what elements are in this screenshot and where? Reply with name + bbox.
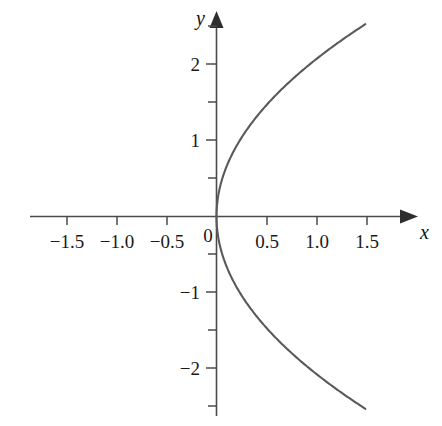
x-tick-label-1-0: 1.0 bbox=[305, 232, 329, 251]
y-tick-label-neg2: −2 bbox=[166, 359, 200, 378]
y-axis-label: y bbox=[196, 8, 205, 28]
x-tick-label-1-5: 1.5 bbox=[355, 232, 379, 251]
x-tick-label-zero: 0 bbox=[203, 226, 213, 245]
curve-upper-branch bbox=[217, 24, 366, 216]
x-axis-arrowhead bbox=[400, 210, 418, 224]
curve-lower-branch bbox=[217, 217, 366, 409]
x-tick-label-neg0-5: −0.5 bbox=[150, 232, 184, 251]
y-tick-label-2: 2 bbox=[176, 55, 200, 74]
x-tick-label-0-5: 0.5 bbox=[255, 232, 279, 251]
y-tick-label-neg1: −1 bbox=[166, 283, 200, 302]
x-axis-label: x bbox=[420, 222, 429, 242]
x-tick-label-neg1-0: −1.0 bbox=[100, 232, 134, 251]
x-tick-label-neg1-5: −1.5 bbox=[50, 232, 84, 251]
plot-canvas bbox=[0, 0, 442, 426]
parabola-figure: −1.5 −1.0 −0.5 0 0.5 1.0 1.5 2 1 −1 −2 y… bbox=[0, 0, 442, 426]
y-tick-label-1: 1 bbox=[176, 131, 200, 150]
